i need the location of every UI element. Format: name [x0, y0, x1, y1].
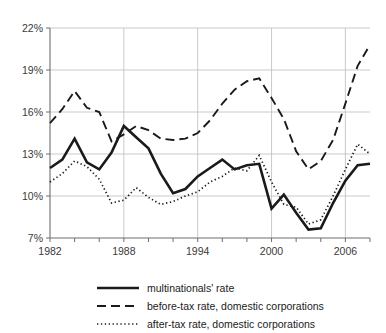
series-line-dashed — [50, 45, 370, 170]
y-axis-tick-labels: 7%10%13%16%19%22% — [22, 22, 43, 244]
y-axis-label: 22% — [22, 22, 43, 34]
gridlines — [50, 28, 370, 238]
legend-item-label: after-tax rate, domestic corporations — [147, 318, 315, 330]
x-axis-label: 1982 — [38, 245, 62, 257]
x-axis-label: 1994 — [186, 245, 210, 257]
y-axis-label: 10% — [22, 190, 43, 202]
x-axis-label: 1988 — [112, 245, 136, 257]
y-axis-label: 16% — [22, 106, 43, 118]
x-axis-label: 2006 — [334, 245, 358, 257]
series-line-solid — [50, 126, 370, 230]
axis-ticks — [46, 28, 370, 242]
y-axis-label: 7% — [28, 232, 43, 244]
y-axis-label: 13% — [22, 148, 43, 160]
x-axis-label: 2000 — [260, 245, 284, 257]
x-axis-tick-labels: 19821988199420002006 — [38, 245, 357, 257]
series-line-dotted — [50, 144, 370, 224]
y-axis-label: 19% — [22, 64, 43, 76]
line-chart: 7%10%13%16%19%22% 19821988199420002006 m… — [0, 0, 386, 333]
chart-canvas: 7%10%13%16%19%22% 19821988199420002006 m… — [0, 0, 386, 333]
legend-item-label: before-tax rate, domestic corporations — [147, 300, 324, 312]
data-series-group — [50, 45, 370, 230]
chart-legend: multinationals' ratebefore-tax rate, dom… — [97, 282, 324, 330]
legend-item-label: multinationals' rate — [147, 282, 234, 294]
